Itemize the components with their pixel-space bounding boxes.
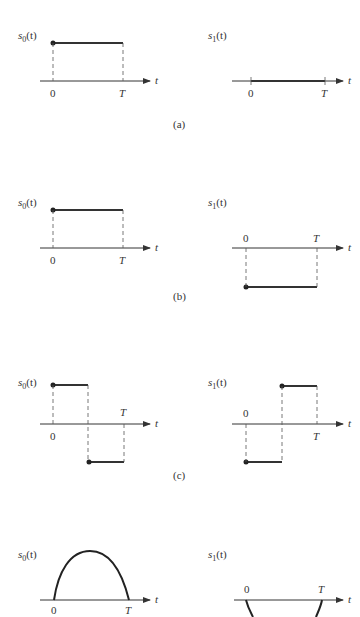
panel-d-s1-plot: s1(t) 0 T t — [208, 548, 352, 617]
panel-b-s1-plot: s1(t) 0 T t — [208, 196, 352, 290]
svg-text:0: 0 — [248, 87, 254, 99]
svg-text:t: t — [155, 593, 159, 605]
svg-text:T: T — [125, 604, 132, 616]
svg-text:T: T — [321, 87, 328, 99]
panel-a-s1-plot: s1(t) t 0 T — [208, 29, 352, 99]
panel-b-s0-plot: s0(t) t 0 T — [18, 196, 159, 266]
svg-text:s0(t): s0(t) — [18, 29, 37, 44]
svg-text:T: T — [119, 87, 126, 99]
svg-text:s1(t): s1(t) — [208, 29, 227, 44]
svg-text:0: 0 — [51, 604, 57, 616]
svg-text:t: t — [348, 593, 352, 605]
svg-text:t: t — [348, 241, 352, 253]
svg-text:T: T — [313, 232, 320, 244]
panel-c-s1-plot: s1(t) 0 t T — [208, 376, 352, 465]
panel-d: s0(t) t 0 T s1(t) 0 T t — [18, 548, 352, 617]
svg-text:t: t — [348, 74, 352, 86]
caption-c: (c) — [173, 469, 186, 482]
panel-c: s0(t) t 0 T s1(t) 0 t T (c) — [18, 376, 352, 482]
svg-text:t: t — [155, 417, 159, 429]
svg-text:T: T — [119, 254, 126, 266]
svg-text:0: 0 — [244, 583, 250, 595]
panel-c-s0-plot: s0(t) t 0 T — [18, 376, 159, 465]
svg-text:s1(t): s1(t) — [208, 196, 227, 211]
svg-text:s0(t): s0(t) — [18, 548, 37, 563]
svg-text:s0(t): s0(t) — [18, 196, 37, 211]
svg-text:0: 0 — [50, 254, 56, 266]
panel-a-s0-plot: s0(t) t 0 T — [18, 29, 159, 99]
svg-text:t: t — [348, 417, 352, 429]
svg-text:s1(t): s1(t) — [208, 548, 227, 563]
svg-text:0: 0 — [50, 87, 56, 99]
panel-a: s0(t) t 0 T s1(t) t 0 T (a) — [18, 29, 352, 131]
svg-text:s0(t): s0(t) — [18, 376, 37, 391]
svg-text:t: t — [155, 74, 159, 86]
svg-text:0: 0 — [243, 232, 249, 244]
svg-text:0: 0 — [243, 407, 249, 419]
svg-text:t: t — [155, 241, 159, 253]
panel-d-s0-plot: s0(t) t 0 T — [18, 548, 159, 616]
signal-waveforms-figure: s0(t) t 0 T s1(t) t 0 T (a) s0(t) t — [0, 0, 360, 617]
svg-text:T: T — [120, 406, 127, 418]
panel-b: s0(t) t 0 T s1(t) 0 T t (b) — [18, 196, 352, 303]
svg-text:s1(t): s1(t) — [208, 376, 227, 391]
svg-text:T: T — [313, 430, 320, 442]
svg-text:0: 0 — [50, 430, 56, 442]
svg-text:T: T — [318, 583, 325, 595]
caption-b: (b) — [173, 290, 186, 303]
caption-a: (a) — [173, 118, 186, 131]
